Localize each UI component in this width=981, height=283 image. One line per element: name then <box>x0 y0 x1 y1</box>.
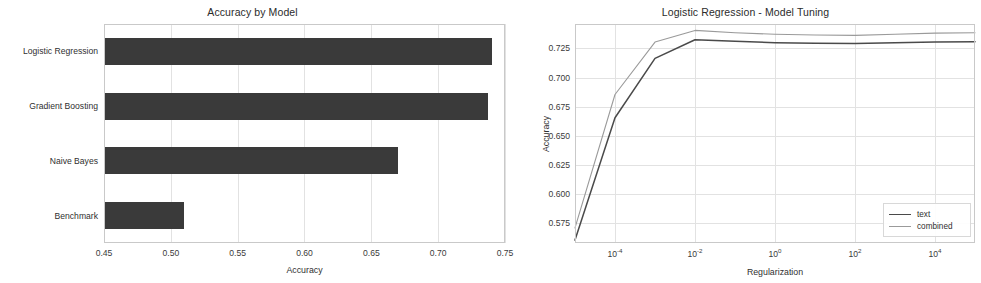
category-label: Logistic Regression <box>0 46 98 56</box>
y-tick-label: 0.625 <box>510 160 570 170</box>
left-axis-spine-top <box>104 24 505 25</box>
right-axis-spine-top <box>575 24 975 25</box>
right-axis-spine-bottom <box>575 242 975 243</box>
right-axis-spine-right <box>974 24 975 243</box>
x-tick-label: 10-2 <box>687 249 702 259</box>
x-tick-label: 0.70 <box>430 248 447 258</box>
y-tick-label: 0.725 <box>510 43 570 53</box>
right-axis-spine-left <box>575 24 576 243</box>
x-tick-label: 0.45 <box>96 248 113 258</box>
left-axis-spine-bottom <box>104 242 505 243</box>
x-tick-label: 0.60 <box>296 248 313 258</box>
x-tick-label: 0.65 <box>363 248 380 258</box>
x-tick-label: 102 <box>848 249 861 259</box>
gridline-vertical <box>505 24 506 243</box>
y-tick-label: 0.675 <box>510 102 570 112</box>
right-chart-title: Logistic Regression - Model Tuning <box>510 6 981 18</box>
legend-item-combined: combined <box>889 220 964 232</box>
bar-logistic-regression <box>104 38 492 65</box>
right-x-axis-label: Regularization <box>747 267 803 277</box>
y-tick-label: 0.650 <box>510 131 570 141</box>
legend-line-swatch <box>889 226 911 227</box>
bar-naive-bayes <box>104 147 398 174</box>
x-tick-label: 100 <box>768 249 781 259</box>
right-y-axis-label: Accuracy <box>541 115 551 151</box>
category-label: Gradient Boosting <box>0 101 98 111</box>
panel-accuracy-by-model: Accuracy by Model 0.450.500.550.600.650.… <box>0 0 510 283</box>
left-axis-spine-left <box>104 24 105 243</box>
x-tick-label: 0.50 <box>162 248 179 258</box>
panel-model-tuning: Logistic Regression - Model Tuning 10-41… <box>510 0 981 283</box>
legend-label: text <box>917 210 930 219</box>
left-axis-spine-right <box>504 24 505 243</box>
bar-gradient-boosting <box>104 93 488 120</box>
right-legend: textcombined <box>883 203 971 237</box>
legend-line-swatch <box>889 214 911 215</box>
left-chart-title: Accuracy by Model <box>0 6 505 18</box>
x-tick-label: 0.55 <box>229 248 246 258</box>
matplotlib-figure: Accuracy by Model 0.450.500.550.600.650.… <box>0 0 981 283</box>
legend-label: combined <box>917 222 953 231</box>
y-tick-label: 0.700 <box>510 73 570 83</box>
category-label: Naive Bayes <box>0 156 98 166</box>
line-series-combined <box>575 30 975 227</box>
category-label: Benchmark <box>0 211 98 221</box>
x-tick-label: 10-4 <box>607 249 622 259</box>
bar-benchmark <box>104 202 184 229</box>
y-tick-label: 0.600 <box>510 189 570 199</box>
left-plot-area <box>104 24 505 243</box>
left-x-axis-label: Accuracy <box>286 265 322 275</box>
y-tick-label: 0.575 <box>510 218 570 228</box>
legend-item-text: text <box>889 208 964 220</box>
x-tick-label: 104 <box>928 249 941 259</box>
